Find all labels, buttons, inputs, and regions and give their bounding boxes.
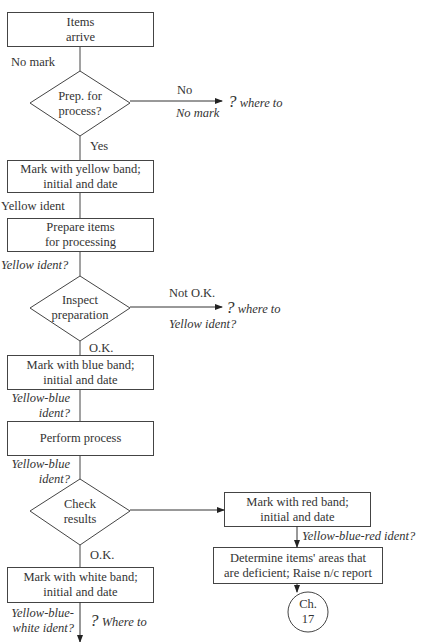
node-text: initial and date <box>43 177 117 191</box>
node-text: initial and date <box>43 373 117 387</box>
label-yellow-ident-q: Yellow ident? <box>1 258 68 273</box>
node-text: Determine items' areas that <box>230 551 366 565</box>
label-text: Yellow-blue <box>11 457 70 471</box>
where-to-text: Where to <box>102 615 147 629</box>
node-text: are deficient; Raise n/c report <box>224 566 372 580</box>
label-no-mark-italic: No mark <box>176 106 219 121</box>
label-where-to-2: ? where to <box>226 300 281 317</box>
node-text: Items <box>67 15 95 29</box>
node-mark-white: Mark with white band;initial and date <box>8 568 153 602</box>
decision-check-results: Checkresults <box>40 496 120 528</box>
node-text: arrive <box>66 30 95 44</box>
node-mark-blue: Mark with blue band;initial and date <box>8 356 153 389</box>
question-mark-icon: ? <box>228 92 237 111</box>
label-yes: Yes <box>90 139 108 154</box>
decision-inspect-preparation: Inspectpreparation <box>38 292 122 324</box>
label-yellow-ident: Yellow ident <box>1 199 65 214</box>
node-text: Prep. for <box>58 89 102 103</box>
node-text: results <box>64 512 97 526</box>
node-text: Ch. <box>299 597 317 611</box>
decision-prep-for-process: Prep. forprocess? <box>40 88 120 120</box>
node-mark-red: Mark with red band;initial and date <box>225 493 370 526</box>
label-where-to: ? where to <box>228 94 283 111</box>
label-ok-2: O.K. <box>90 548 114 563</box>
label-text: ident? <box>39 406 70 420</box>
node-determine-deficient: Determine items' areas thatare deficient… <box>214 548 382 583</box>
label-yellow-ident-q2: Yellow ident? <box>169 317 236 332</box>
label-yellow-blue-white-ident: Yellow-blue-white ident? <box>8 606 74 636</box>
question-mark-icon: ? <box>226 298 235 317</box>
label-yellow-blue-red-ident: Yellow-blue-red ident? <box>302 529 415 544</box>
label-no: No <box>177 83 192 98</box>
node-text: preparation <box>52 308 109 322</box>
node-text: initial and date <box>260 510 334 524</box>
label-text: ident? <box>39 472 70 486</box>
node-prepare-items: Prepare itemsfor processing <box>8 219 153 251</box>
node-text: Mark with white band; <box>23 570 137 584</box>
node-text: for processing <box>45 235 116 249</box>
label-yellow-blue-ident-2: Yellow-blueident? <box>10 457 70 487</box>
node-text: Prepare items <box>46 220 114 234</box>
where-to-text: where to <box>240 96 283 110</box>
label-where-to-3: ? Where to <box>90 613 147 630</box>
node-text: initial and date <box>43 585 117 599</box>
node-text: Mark with red band; <box>246 495 348 509</box>
label-text: white ident? <box>13 621 74 635</box>
node-text: Perform process <box>40 431 122 446</box>
question-mark-icon: ? <box>90 611 99 630</box>
where-to-text: where to <box>238 302 281 316</box>
node-text: 17 <box>302 612 315 626</box>
label-text: Yellow-blue <box>11 391 70 405</box>
connector-ch17: Ch.17 <box>288 592 328 632</box>
label-ok: O.K. <box>89 341 113 356</box>
label-no-mark: No mark <box>11 55 55 70</box>
node-text: Check <box>64 497 96 511</box>
label-not-ok: Not O.K. <box>169 286 215 301</box>
node-items-arrive: Itemsarrive <box>8 13 153 46</box>
label-text: Yellow-blue- <box>11 606 74 620</box>
node-text: Mark with blue band; <box>27 358 135 372</box>
node-text: Inspect <box>62 293 98 307</box>
node-text: Mark with yellow band; <box>20 162 140 176</box>
node-text: process? <box>58 104 101 118</box>
label-yellow-blue-ident: Yellow-blueident? <box>10 391 70 421</box>
node-perform-process: Perform process <box>8 422 153 455</box>
node-mark-yellow: Mark with yellow band;initial and date <box>8 161 153 192</box>
